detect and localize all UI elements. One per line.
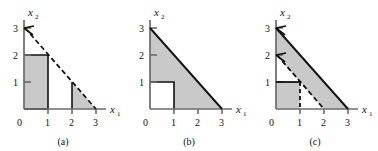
y-axis-label: x — [27, 6, 33, 18]
panel-a-plot: 0 1 2 3 1 2 3 x 1 x 2 — [0, 0, 126, 151]
x-axis-label-subscript: 1 — [243, 110, 247, 118]
x-ticklabel-1: 1 — [171, 117, 176, 128]
x-ticklabel-2: 2 — [195, 117, 200, 128]
y-ticklabel-2: 2 — [13, 50, 18, 61]
y-ticklabel-2: 2 — [265, 50, 270, 61]
panel-b: 0 1 2 3 1 2 3 x 1 x 2 (b) — [126, 0, 252, 151]
panel-b-caption: (b) — [126, 136, 252, 147]
y-ticklabel-2: 2 — [139, 50, 144, 61]
y-ticklabel-3: 3 — [265, 23, 270, 34]
panel-c-plot: 0 1 2 3 1 2 3 x 1 x 2 — [252, 0, 378, 151]
x-axis-label: x — [235, 103, 241, 115]
panel-b-plot: 0 1 2 3 1 2 3 x 1 x 2 — [126, 0, 252, 151]
panel-a-caption: (a) — [0, 136, 126, 147]
y-ticklabel-1: 1 — [139, 77, 144, 88]
x-ticklabel-0: 0 — [269, 117, 274, 128]
figure-three-panel-plots: 0 1 2 3 1 2 3 x 1 x 2 (a) — [0, 0, 378, 151]
x-ticklabel-3: 3 — [219, 117, 224, 128]
x-ticklabel-1: 1 — [297, 117, 302, 128]
y-ticklabel-1: 1 — [265, 77, 270, 88]
rectangle-region — [276, 82, 300, 109]
panel-a: 0 1 2 3 1 2 3 x 1 x 2 (a) — [0, 0, 126, 151]
y-ticklabel-3: 3 — [13, 23, 18, 34]
x-ticklabel-2: 2 — [321, 117, 326, 128]
x-ticklabel-3: 3 — [93, 117, 98, 128]
x-axis-label: x — [109, 103, 115, 115]
y-ticklabel-1: 1 — [13, 77, 18, 88]
x-ticklabel-0: 0 — [143, 117, 148, 128]
x-ticklabel-2: 2 — [69, 117, 74, 128]
x-ticklabel-0: 0 — [17, 117, 22, 128]
y-axis-label: x — [279, 6, 285, 18]
y-axis-label-subscript: 2 — [161, 13, 165, 21]
x-ticklabel-3: 3 — [345, 117, 350, 128]
x-axis-label: x — [361, 103, 367, 115]
unit-square-cutout — [150, 82, 174, 109]
y-axis-label: x — [153, 6, 159, 18]
y-axis-label-subscript: 2 — [35, 13, 39, 21]
constraint-line-arrowhead — [24, 26, 34, 35]
panel-c-caption: (c) — [252, 136, 378, 147]
x-axis-label-subscript: 1 — [117, 110, 121, 118]
y-ticklabel-3: 3 — [139, 23, 144, 34]
x-ticklabel-1: 1 — [45, 117, 50, 128]
x-axis-label-subscript: 1 — [369, 110, 373, 118]
y-axis-label-subscript: 2 — [287, 13, 291, 21]
panel-c: 0 1 2 3 1 2 3 x 1 x 2 (c) — [252, 0, 378, 151]
